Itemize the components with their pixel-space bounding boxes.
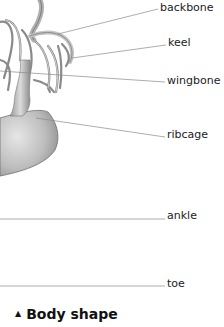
backbone-bones [30, 0, 72, 62]
leader-line-backbone [58, 9, 158, 34]
section-heading-body-shape: ▲ Body shape [15, 306, 118, 322]
label-ankle: ankle [167, 209, 197, 222]
triangle-up-icon: ▲ [15, 307, 21, 321]
label-ribcage: ribcage [167, 128, 208, 141]
leader-line-keel [72, 45, 166, 58]
label-backbone: backbone [160, 1, 214, 14]
section-title: Body shape [26, 306, 118, 322]
neck-column [10, 60, 31, 116]
label-keel: keel [168, 36, 191, 49]
label-wingbone: wingbone [167, 74, 220, 87]
label-toe: toe [167, 277, 185, 290]
bird-skeleton-illustration [0, 0, 224, 327]
